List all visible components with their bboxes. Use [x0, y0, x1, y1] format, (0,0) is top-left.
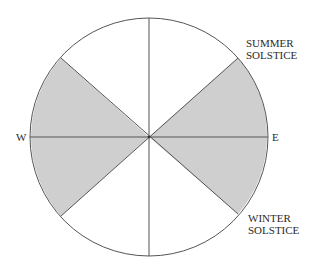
- center-point: [148, 136, 151, 139]
- winter-solstice-label: WINTER SOLSTICE: [248, 212, 299, 236]
- summer-label-line2: SOLSTICE: [246, 49, 297, 61]
- east-label: E: [272, 131, 279, 143]
- winter-label-line2: SOLSTICE: [248, 224, 299, 236]
- east-shaded-sector: [149, 58, 267, 214]
- west-label: W: [16, 131, 26, 143]
- winter-label-line1: WINTER: [248, 212, 299, 224]
- summer-solstice-label: SUMMER SOLSTICE: [246, 37, 297, 61]
- summer-label-line1: SUMMER: [246, 37, 297, 49]
